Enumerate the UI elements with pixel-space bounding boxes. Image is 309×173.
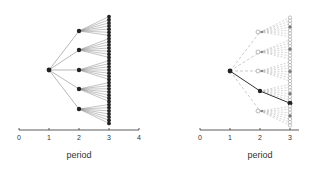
- tree-diagram-figure: 01234period0123period: [0, 0, 309, 173]
- period2-node-marker: [261, 70, 263, 72]
- x-tick-label: 4: [137, 134, 141, 141]
- x-axis-title: period: [66, 150, 91, 160]
- x-tick-label: 2: [77, 134, 81, 141]
- x-axis: 01234period: [17, 128, 141, 160]
- x-tick-label: 1: [47, 134, 51, 141]
- panel-full-tree: 01234period: [17, 15, 141, 160]
- period2-node: [256, 30, 260, 34]
- x-axis: 0123period: [198, 128, 299, 160]
- period2-node-marker: [261, 51, 263, 53]
- x-tick-label: 0: [198, 134, 202, 141]
- period2-node: [77, 68, 81, 72]
- period2-node: [77, 107, 81, 111]
- period2-node: [77, 87, 81, 91]
- root-node: [47, 68, 52, 73]
- root-node: [228, 69, 233, 74]
- x-tick-label: 2: [258, 134, 262, 141]
- x-axis-title: period: [247, 150, 272, 160]
- leaf-node: [107, 122, 111, 126]
- panel-sampled-path-tree: 0123period: [198, 16, 299, 160]
- period2-node: [256, 69, 260, 73]
- x-tick-label: 0: [17, 134, 21, 141]
- period2-node: [258, 89, 262, 93]
- period2-node: [77, 29, 81, 33]
- period2-node: [256, 50, 260, 54]
- period2-node: [256, 109, 260, 113]
- period2-node-marker: [261, 110, 263, 112]
- leaf-node: [288, 124, 291, 127]
- period2-node: [77, 48, 81, 52]
- x-tick-label: 3: [107, 134, 111, 141]
- period2-node-marker: [261, 31, 263, 33]
- x-tick-label: 1: [228, 134, 232, 141]
- x-tick-label: 3: [288, 134, 292, 141]
